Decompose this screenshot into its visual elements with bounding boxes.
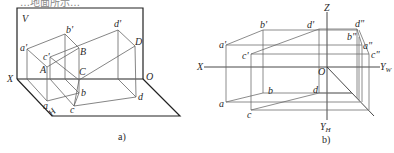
diagram-b-lines bbox=[0, 0, 394, 153]
point-c-b: c bbox=[247, 110, 251, 120]
point-a-prime-b: a' bbox=[219, 40, 226, 50]
point-c-dprime: c" bbox=[371, 50, 380, 60]
axis-yw-subscript: W bbox=[386, 66, 392, 74]
point-b-dprime: b" bbox=[347, 32, 356, 42]
point-d-dprime: d" bbox=[355, 19, 364, 29]
point-c-prime-b: c' bbox=[242, 51, 249, 61]
axis-yh-subscript: H bbox=[326, 126, 331, 134]
point-b-b: b bbox=[268, 86, 273, 96]
axis-yw-label: YW bbox=[380, 62, 391, 74]
point-d-prime-b: d' bbox=[307, 20, 314, 30]
projection-figure: …地面所示… bbox=[0, 0, 394, 153]
caption-b: b) bbox=[322, 135, 330, 145]
axis-x-label-b: X bbox=[197, 62, 203, 72]
origin-o-label-b: O bbox=[318, 67, 325, 77]
axis-z-label: Z bbox=[324, 3, 330, 13]
point-d-b: d bbox=[313, 85, 318, 95]
point-b-prime-b: b' bbox=[260, 20, 267, 30]
axis-yh-label: YH bbox=[320, 122, 331, 134]
point-a-b: a bbox=[219, 99, 224, 109]
